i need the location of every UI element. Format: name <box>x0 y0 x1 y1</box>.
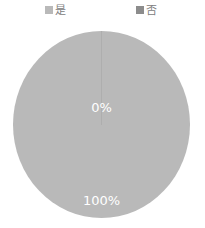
legend-item-shi[interactable]: 是 <box>45 2 66 18</box>
pie-svg <box>13 31 190 218</box>
legend-item-fou[interactable]: 否 <box>136 2 157 18</box>
pie-plot-area: 0% 100% <box>13 31 190 218</box>
pie-slice-value-shi: 0% <box>13 101 190 114</box>
square-icon <box>136 6 144 14</box>
legend-item-label: 是 <box>55 5 66 16</box>
pie-chart-figure: 是 否 0% 100% <box>0 0 205 228</box>
chart-legend: 是 否 <box>0 0 205 22</box>
pie-slice-value-fou: 100% <box>13 194 190 207</box>
square-icon <box>45 6 53 14</box>
legend-item-label: 否 <box>146 5 157 16</box>
